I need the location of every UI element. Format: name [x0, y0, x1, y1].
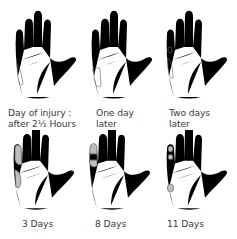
caption-line-1: 3 Days	[22, 219, 53, 230]
hand-illustration	[155, 130, 233, 214]
caption-line-1: 8 Days	[95, 219, 126, 230]
hand-illustration	[2, 130, 80, 214]
caption: 11 Days	[167, 219, 204, 230]
caption-line-1: Day of injury :	[8, 108, 76, 119]
hand-illustration	[78, 130, 156, 214]
caption: One day later	[96, 108, 134, 129]
hand-illustration	[80, 2, 158, 102]
caption-line-2: after 2½ Hours	[8, 119, 76, 130]
caption: Two days later	[169, 108, 210, 129]
caption-line-1: Two days	[169, 108, 210, 119]
caption: 8 Days	[95, 219, 126, 230]
caption-line-1: 11 Days	[167, 219, 204, 230]
caption-line-1: One day	[96, 108, 134, 119]
caption-line-2: later	[169, 119, 210, 130]
caption: Day of injury : after 2½ Hours	[8, 108, 76, 129]
hand-illustration	[155, 2, 233, 102]
hand-illustration	[4, 2, 82, 102]
caption: 3 Days	[22, 219, 53, 230]
caption-line-2: later	[96, 119, 134, 130]
